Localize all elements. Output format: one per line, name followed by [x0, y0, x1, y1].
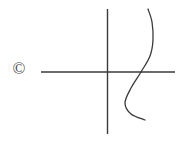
figure-root: ©	[0, 0, 181, 141]
copyright-icon: ©	[10, 60, 28, 78]
